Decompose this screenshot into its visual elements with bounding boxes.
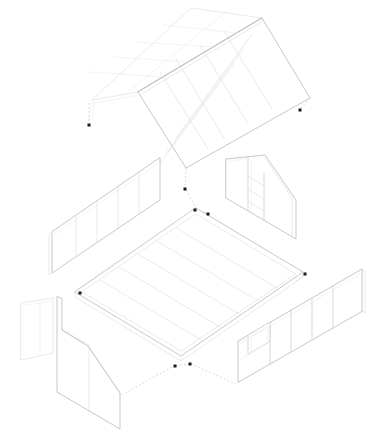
wall-back-left-thickness bbox=[49, 232, 52, 275]
wall-back-right[interactable] bbox=[226, 155, 296, 239]
roof-left-fascia-inner bbox=[92, 103, 94, 121]
wall-front-left-main-face bbox=[57, 297, 120, 429]
marker-wall-back-left-base[interactable] bbox=[79, 292, 82, 295]
roof-assembly[interactable] bbox=[89, 8, 310, 168]
exploded-axonometric-drawing bbox=[0, 0, 386, 431]
marker-wall-front-right-top[interactable] bbox=[304, 273, 307, 276]
marker-roof-right-eave[interactable] bbox=[299, 109, 302, 112]
guide-front-left-wall bbox=[120, 367, 172, 396]
guide-ridge-to-floor bbox=[186, 190, 196, 208]
wall-front-left-return-face bbox=[21, 298, 53, 360]
guide-front-right-wall bbox=[191, 364, 236, 384]
marker-wall-front-left-top[interactable] bbox=[189, 363, 192, 366]
marker-wall-back-right-base[interactable] bbox=[207, 213, 210, 216]
roof-left-fascia bbox=[89, 100, 92, 121]
marker-ridge-drop[interactable] bbox=[184, 188, 187, 191]
drawing-canvas bbox=[0, 0, 386, 431]
wall-front-left-connector bbox=[53, 297, 57, 298]
wall-front-left[interactable] bbox=[21, 297, 120, 429]
wall-front-right-thickness bbox=[362, 269, 365, 313]
marker-floor-front-corner[interactable] bbox=[174, 365, 177, 368]
marker-floor-back-corner[interactable] bbox=[194, 209, 197, 212]
marker-roof-left-eave[interactable] bbox=[88, 124, 91, 127]
guide-ridge-drop bbox=[185, 168, 186, 187]
guide-front-corner bbox=[176, 364, 189, 366]
